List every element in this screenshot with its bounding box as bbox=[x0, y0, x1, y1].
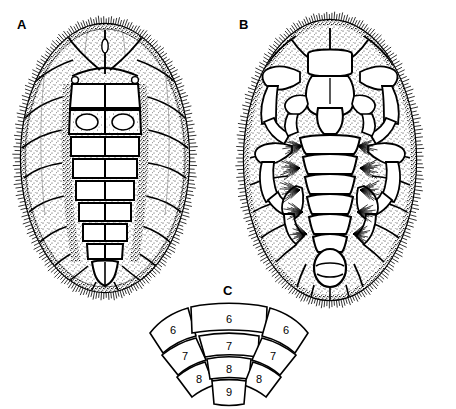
panel-c-number-6-right: 6 bbox=[283, 324, 289, 336]
panel-a-pore-right bbox=[132, 77, 139, 84]
plate-svg: 6 6 6 7 7 7 8 8 8 9 bbox=[0, 0, 456, 409]
panel-b-capitulum bbox=[308, 50, 352, 77]
panel-c-number-6-left: 6 bbox=[170, 324, 176, 336]
panel-c-number-8-right: 8 bbox=[256, 373, 262, 385]
panel-label-a: A bbox=[17, 17, 27, 32]
panel-b-anal-opening bbox=[314, 249, 346, 287]
panel-a-median-plates bbox=[66, 84, 144, 286]
panel-a-pore-left bbox=[72, 77, 79, 84]
panel-c-number-7-left: 7 bbox=[182, 350, 188, 362]
panel-c-number-6-center: 6 bbox=[226, 313, 232, 325]
panel-label-c: C bbox=[223, 283, 233, 298]
panel-c-number-9-center: 9 bbox=[226, 386, 232, 398]
panel-a-anterior-seta-base bbox=[102, 39, 108, 53]
panel-c-number-8-left: 8 bbox=[196, 373, 202, 385]
panel-c-number-7-center: 7 bbox=[226, 340, 232, 352]
panel-c-number-8-center: 8 bbox=[226, 363, 232, 375]
panel-label-b: B bbox=[239, 17, 249, 32]
panel-c-number-7-right: 7 bbox=[270, 350, 276, 362]
figure-plate: 6 6 6 7 7 7 8 8 8 9 A B C bbox=[0, 0, 456, 409]
panel-b-labrum bbox=[317, 108, 343, 134]
